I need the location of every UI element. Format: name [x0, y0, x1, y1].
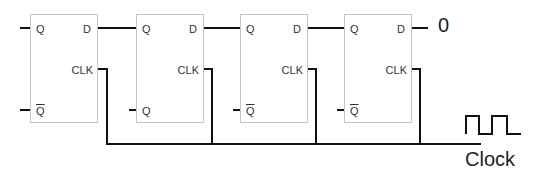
square-wave-icon: [0, 0, 542, 180]
clock-label: Clock: [465, 148, 515, 171]
shift-register-diagram: Q D CLK Q Q D CLK Q Q D CLK Q Q D CLK Q …: [0, 0, 542, 180]
